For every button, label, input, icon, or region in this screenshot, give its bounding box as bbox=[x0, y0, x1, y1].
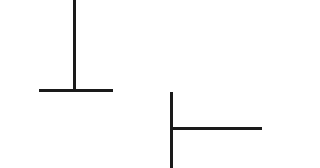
horizontal-line bbox=[39, 89, 113, 92]
vertical-line bbox=[73, 0, 76, 90]
vertical-line bbox=[170, 92, 173, 168]
horizontal-line bbox=[172, 127, 262, 130]
